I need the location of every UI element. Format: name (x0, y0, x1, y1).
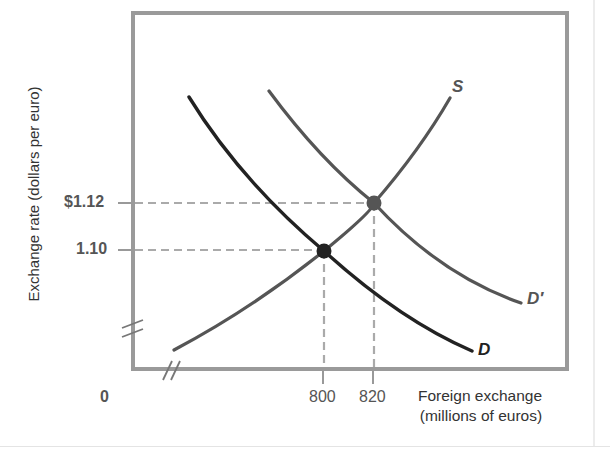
x-axis-label-line2: (millions of euros) (418, 406, 542, 426)
y-axis-label: Exchange rate (dollars per euro) (25, 86, 42, 301)
curve-label-d: D (478, 340, 490, 360)
curve-label-d-prime: D′ (527, 289, 543, 309)
demand-curve-d (189, 97, 472, 351)
ytick-label-112: $1.12 (64, 193, 104, 211)
origin-label: 0 (100, 388, 109, 406)
plot-frame (133, 13, 567, 369)
xtick-label-800: 800 (309, 388, 336, 406)
page-side-rule (593, 0, 595, 446)
xtick-label-820: 820 (359, 388, 386, 406)
ytick-label-110: 1.10 (76, 240, 107, 258)
demand-curve-d-prime (269, 91, 521, 303)
equilibrium-point-initial (317, 244, 332, 259)
equilibrium-point-new (367, 196, 382, 211)
page-bottom-rule (0, 446, 610, 447)
x-axis-label-line1: Foreign exchange (418, 386, 542, 406)
curve-label-s: S (452, 77, 463, 97)
x-axis-label: Foreign exchange (millions of euros) (418, 386, 542, 426)
